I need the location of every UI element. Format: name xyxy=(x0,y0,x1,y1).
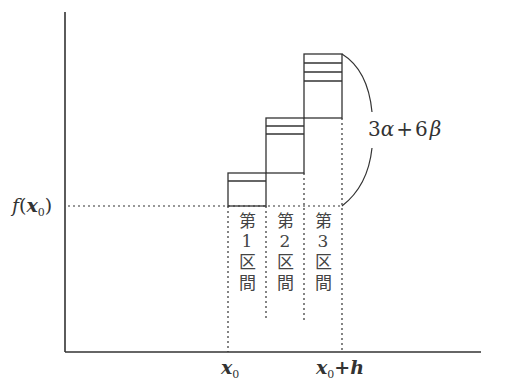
interval-label-char: 2 xyxy=(280,231,291,251)
brace-arc-bottom xyxy=(342,148,372,206)
interval-label-char: 第 xyxy=(277,211,294,231)
interval-label-char: 3 xyxy=(318,231,329,251)
x-tick-x0: x0 xyxy=(220,356,239,381)
brace-arc-top xyxy=(342,54,372,112)
interval-2-block xyxy=(266,118,304,173)
interval-label-char: 区 xyxy=(277,252,294,272)
brace-label: 3α+6β xyxy=(368,117,441,141)
interval-label-char: 間 xyxy=(315,273,332,293)
interval-label-2: 第 2 区 間 xyxy=(277,211,294,293)
interval-1-rect xyxy=(228,173,266,206)
interval-label-char: 区 xyxy=(239,252,256,272)
interval-label-char: 第 xyxy=(315,211,332,231)
interval-label-char: 区 xyxy=(315,252,332,272)
interval-1-block xyxy=(228,173,266,206)
interval-3-block xyxy=(304,54,342,118)
interval-label-char: 間 xyxy=(239,273,256,293)
interval-label-1: 第 1 区 間 xyxy=(239,211,256,293)
x-tick-x0-plus-h: x0+h xyxy=(315,356,364,381)
interval-label-char: 1 xyxy=(242,231,253,251)
interval-label-char: 間 xyxy=(277,273,294,293)
staircase-diagram: 3α+6β f(x0) x0 x0+h 第 1 区 間 第 2 区 間 第 3 … xyxy=(0,0,506,388)
y-label-f-x0: f(x0) xyxy=(10,194,52,219)
interval-label-char: 第 xyxy=(239,211,256,231)
interval-label-3: 第 3 区 間 xyxy=(315,211,332,293)
